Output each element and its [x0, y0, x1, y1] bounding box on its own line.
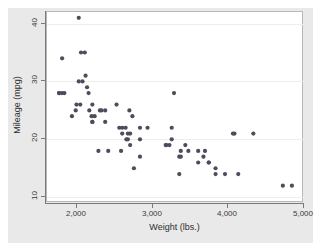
y-tick-label-20: 20 [30, 132, 39, 144]
x-tick-5000 [303, 204, 304, 208]
data-point [179, 155, 183, 159]
data-point [119, 149, 123, 153]
data-point [132, 166, 136, 170]
x-tick-label-5000: 5,000 [283, 209, 321, 218]
x-tick-3000 [152, 204, 153, 208]
plot-region [46, 11, 303, 202]
x-axis-line [45, 203, 304, 204]
data-point [231, 131, 235, 135]
x-axis-title: Weight (lbs.) [46, 222, 303, 232]
data-point [290, 184, 294, 188]
data-point [78, 103, 82, 107]
data-point [90, 103, 94, 107]
data-point [236, 172, 240, 176]
data-point [57, 91, 61, 95]
scatter-plot-figure: 2,0003,0004,0005,000 10203040 Weight (lb… [0, 0, 321, 251]
data-point [213, 166, 217, 170]
data-point [170, 126, 174, 130]
y-axis-title: Mileage (mpg) [12, 45, 22, 165]
data-point [103, 108, 107, 112]
y-tick-30 [41, 80, 45, 81]
data-point [114, 103, 118, 107]
data-point [201, 155, 205, 159]
data-point [77, 16, 81, 20]
plot-canvas [47, 12, 304, 203]
data-point [126, 131, 130, 135]
y-axis-line [45, 11, 46, 203]
x-tick-4000 [227, 204, 228, 208]
y-tick-label-40: 40 [30, 17, 39, 29]
data-point [77, 79, 81, 83]
data-point [167, 143, 171, 147]
data-point [128, 143, 132, 147]
y-tick-20 [41, 138, 45, 139]
data-point [106, 149, 110, 153]
data-point [79, 50, 83, 54]
data-point [183, 143, 187, 147]
data-point [177, 172, 181, 176]
data-point [103, 120, 107, 124]
data-point [83, 50, 87, 54]
data-point [86, 91, 90, 95]
data-point [223, 172, 227, 176]
data-point [203, 149, 207, 153]
data-point [138, 126, 142, 130]
data-point [172, 91, 176, 95]
gridlines-group [47, 25, 304, 198]
x-tick-label-2000: 2,000 [56, 209, 96, 218]
y-tick-label-10: 10 [30, 190, 39, 202]
x-tick-2000 [76, 204, 77, 208]
data-point [120, 126, 124, 130]
data-point [213, 172, 217, 176]
data-point [127, 108, 131, 112]
data-point [70, 114, 74, 118]
data-point [196, 160, 200, 164]
data-point [74, 103, 78, 107]
data-point [90, 114, 94, 118]
data-point [196, 149, 200, 153]
data-point [87, 108, 91, 112]
y-tick-10 [41, 196, 45, 197]
data-point [138, 155, 142, 159]
y-tick-label-30: 30 [30, 74, 39, 86]
data-point [85, 85, 89, 89]
data-point [186, 149, 190, 153]
data-point [120, 131, 124, 135]
data-point [281, 184, 285, 188]
data-point [124, 137, 128, 141]
data-point [164, 143, 168, 147]
x-tick-label-4000: 4,000 [207, 209, 247, 218]
data-point [74, 108, 78, 112]
data-point [130, 114, 134, 118]
data-point [251, 131, 255, 135]
data-point [170, 137, 174, 141]
data-point [83, 74, 87, 78]
x-tick-label-3000: 3,000 [132, 209, 172, 218]
data-point [207, 160, 211, 164]
data-point [90, 120, 94, 124]
data-point [138, 137, 142, 141]
data-point [60, 56, 64, 60]
data-point [96, 149, 100, 153]
y-tick-40 [41, 23, 45, 24]
data-point [179, 149, 183, 153]
data-point [80, 79, 84, 83]
data-point [145, 126, 149, 130]
data-point [99, 108, 103, 112]
data-points-group [57, 16, 294, 188]
